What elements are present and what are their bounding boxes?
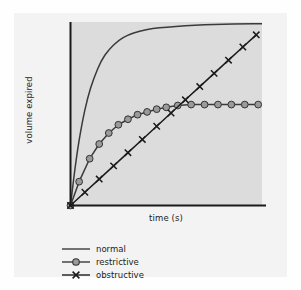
legend-line-normal xyxy=(60,243,92,255)
spirometry-figure: volume expired time (s) normal restricti… xyxy=(0,0,301,290)
marker-restrictive xyxy=(86,155,93,162)
legend-line-obstructive xyxy=(60,269,92,281)
marker-obstructive xyxy=(240,44,246,50)
marker-obstructive xyxy=(211,70,217,76)
marker-obstructive xyxy=(182,97,188,103)
marker-obstructive xyxy=(125,149,131,155)
marker-restrictive xyxy=(201,101,208,108)
marker-restrictive xyxy=(144,109,151,116)
curve-group xyxy=(67,24,262,209)
y-axis-label: volume expired xyxy=(24,62,34,158)
legend-item-restrictive: restrictive xyxy=(60,256,220,268)
marker-restrictive xyxy=(255,101,262,108)
legend-label-obstructive: obstructive xyxy=(92,270,144,280)
legend-item-obstructive: obstructive xyxy=(60,269,220,281)
marker-obstructive xyxy=(225,57,231,63)
marker-obstructive xyxy=(110,163,116,169)
marker-obstructive xyxy=(96,176,102,182)
marker-obstructive xyxy=(197,83,203,89)
marker-restrictive xyxy=(105,130,112,137)
marker-obstructive xyxy=(82,189,88,195)
marker-restrictive xyxy=(76,178,83,185)
legend-label-restrictive: restrictive xyxy=(92,257,139,267)
legend-line-restrictive xyxy=(60,256,92,268)
marker-restrictive xyxy=(96,141,103,148)
legend-label-normal: normal xyxy=(92,244,126,254)
legend: normal restrictive obstructive xyxy=(60,243,220,282)
marker-restrictive xyxy=(153,106,160,113)
marker-obstructive xyxy=(153,123,159,129)
legend-item-normal: normal xyxy=(60,243,220,255)
marker-restrictive xyxy=(215,101,222,108)
marker-obstructive xyxy=(139,136,145,142)
marker-restrictive xyxy=(134,111,141,118)
marker-obstructive xyxy=(253,32,259,38)
marker-restrictive xyxy=(125,116,132,123)
marker-restrictive xyxy=(228,101,235,108)
marker-obstructive xyxy=(168,110,174,116)
marker-restrictive xyxy=(241,101,248,108)
marker-restrictive xyxy=(115,121,122,128)
x-axis-label: time (s) xyxy=(70,213,262,223)
